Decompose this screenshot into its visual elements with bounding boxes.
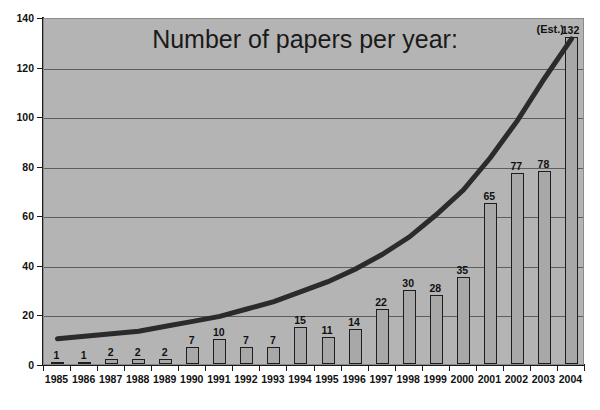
x-axis-tick (151, 366, 152, 371)
y-axis-tick-label: 120 (0, 63, 34, 74)
x-axis-tick (395, 366, 396, 371)
x-axis-tick (286, 366, 287, 371)
bar-value-label: 14 (338, 317, 370, 328)
x-axis-tick (476, 366, 477, 371)
estimate-annotation: (Est.) (537, 24, 565, 35)
bar-value-label: 22 (365, 297, 397, 308)
x-axis-tick (530, 366, 531, 371)
y-axis-tick-label: 20 (0, 310, 34, 321)
bar-value-label: 65 (473, 191, 505, 202)
y-axis-tick-label: 0 (0, 360, 34, 371)
y-axis-tick-label: 80 (0, 162, 34, 173)
y-axis-tick (37, 167, 42, 168)
bar-value-label: 2 (149, 347, 181, 358)
bar-value-label: 7 (257, 335, 289, 346)
bar-value-label: 35 (446, 265, 478, 276)
trend-curve-path (58, 39, 572, 339)
y-axis-tick (37, 216, 42, 217)
x-axis-tick (449, 366, 450, 371)
y-axis-tick-label: 140 (0, 13, 34, 24)
x-axis-tick-label: 2004 (554, 374, 586, 385)
y-axis-tick (37, 18, 42, 19)
x-axis-tick (43, 366, 44, 371)
x-axis-tick (124, 366, 125, 371)
y-axis-tick-label: 60 (0, 211, 34, 222)
bar-chart: 020406080100120140 112227107715111422302… (0, 0, 600, 410)
x-axis-tick (178, 366, 179, 371)
y-axis-tick-label: 40 (0, 261, 34, 272)
x-axis-tick (341, 366, 342, 371)
x-axis-tick (557, 366, 558, 371)
x-axis-tick (70, 366, 71, 371)
x-axis-tick (97, 366, 98, 371)
x-axis-tick (422, 366, 423, 371)
x-axis-tick (584, 366, 585, 371)
x-axis-tick (232, 366, 233, 371)
y-axis-tick (37, 315, 42, 316)
x-axis-tick (259, 366, 260, 371)
y-axis-tick (37, 266, 42, 267)
y-axis-tick (37, 68, 42, 69)
x-axis-tick (314, 366, 315, 371)
y-axis-tick (37, 365, 42, 366)
x-axis-tick (368, 366, 369, 371)
x-axis-tick (503, 366, 504, 371)
y-axis-tick-label: 100 (0, 112, 34, 123)
bar-value-label: 78 (527, 159, 559, 170)
chart-title: Number of papers per year: (120, 26, 490, 54)
y-axis-tick (37, 117, 42, 118)
bar-value-label: 15 (284, 315, 316, 326)
bar-value-label: 28 (419, 283, 451, 294)
x-axis-tick (205, 366, 206, 371)
